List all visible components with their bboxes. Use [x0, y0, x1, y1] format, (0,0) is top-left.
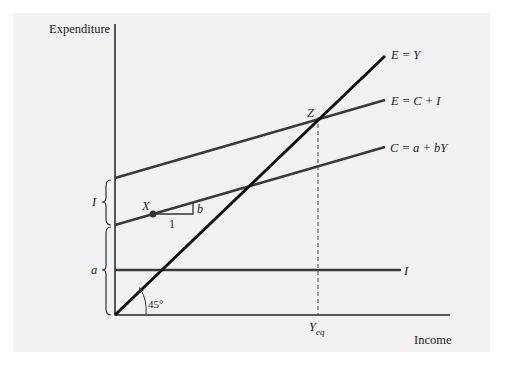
y-axis-label: Expenditure: [49, 22, 111, 36]
brace-investment: [102, 180, 111, 225]
label-e-equals-c-plus-i: E = C + I: [390, 94, 441, 108]
label-e-equals-y: E = Y: [390, 48, 422, 62]
label-investment: I: [403, 264, 409, 278]
label-angle: 45°: [148, 298, 163, 310]
label-consumption: C = a + bY: [390, 141, 449, 155]
label-y-eq: Yeq: [309, 320, 325, 337]
keynesian-cross-diagram: Expenditure Income E = Y E = C + I C = a…: [0, 0, 505, 369]
brace-autonomous: [102, 227, 111, 315]
label-slope-run: 1: [169, 217, 175, 231]
label-brace-investment: I: [91, 195, 97, 209]
point-x-marker: [150, 211, 157, 218]
label-point-z: Z: [307, 106, 315, 120]
label-slope-b: b: [197, 202, 203, 216]
label-point-x: X: [141, 199, 151, 213]
x-axis-label: Income: [414, 333, 452, 347]
forty-five-degree-line: [115, 56, 385, 315]
aggregate-expenditure-line: [115, 100, 385, 178]
angle-arc: [141, 290, 146, 314]
label-brace-autonomous: a: [91, 263, 97, 277]
